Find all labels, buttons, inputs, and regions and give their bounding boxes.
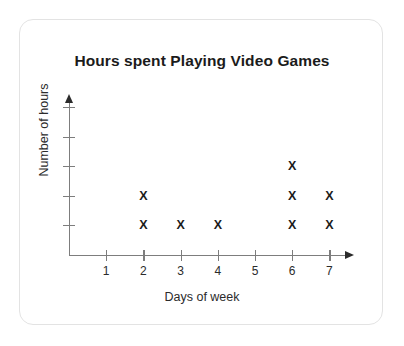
x-axis-tick bbox=[292, 250, 293, 261]
x-axis-arrow-icon bbox=[345, 251, 354, 259]
chart-card: Hours spent Playing Video Games 1234567 … bbox=[19, 19, 383, 325]
x-axis-line bbox=[69, 255, 346, 256]
data-point-marker: X bbox=[171, 219, 191, 232]
data-point-marker: X bbox=[319, 219, 339, 232]
y-axis-tick bbox=[63, 225, 75, 226]
x-axis-tick-label: 4 bbox=[208, 264, 228, 278]
data-point-marker: X bbox=[282, 219, 302, 232]
y-axis-tick bbox=[63, 137, 75, 138]
x-axis-tick-label: 3 bbox=[171, 264, 191, 278]
y-axis-line bbox=[69, 102, 70, 256]
x-axis-tick-label: 6 bbox=[282, 264, 302, 278]
plot-area: 1234567 XXXXXXXXX Number of hours Days o… bbox=[20, 20, 384, 326]
x-axis-tick-label: 2 bbox=[133, 264, 153, 278]
x-axis-tick bbox=[181, 250, 182, 261]
data-point-marker: X bbox=[282, 160, 302, 173]
x-axis-tick-label: 1 bbox=[96, 264, 116, 278]
y-axis-tick bbox=[63, 107, 75, 108]
x-axis-tick bbox=[329, 250, 330, 261]
x-axis-tick bbox=[255, 250, 256, 261]
x-axis-tick bbox=[218, 250, 219, 261]
x-axis-tick-label: 5 bbox=[245, 264, 265, 278]
y-axis-arrow-icon bbox=[65, 94, 73, 103]
y-axis-label: Number of hours bbox=[37, 65, 51, 195]
data-point-marker: X bbox=[208, 219, 228, 232]
data-point-marker: X bbox=[133, 219, 153, 232]
y-axis-tick bbox=[63, 166, 75, 167]
data-point-marker: X bbox=[282, 190, 302, 203]
x-axis-tick bbox=[106, 250, 107, 261]
x-axis-label: Days of week bbox=[20, 290, 384, 304]
data-point-marker: X bbox=[319, 190, 339, 203]
x-axis-tick bbox=[143, 250, 144, 261]
x-axis-tick-label: 7 bbox=[319, 264, 339, 278]
y-axis-tick bbox=[63, 196, 75, 197]
data-point-marker: X bbox=[133, 190, 153, 203]
